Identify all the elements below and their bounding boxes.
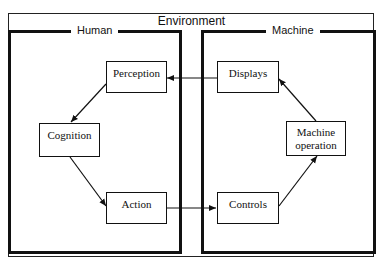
node-cognition-label: Cognition [47,129,91,142]
arrow-perception-to-cognition [71,84,106,122]
node-perception-label: Perception [113,67,160,80]
arrow-machine-operation-to-displays [279,79,316,121]
node-controls-label: Controls [229,198,267,211]
arrow-cognition-to-action [70,157,106,206]
node-cognition: Cognition [39,123,100,157]
node-displays-label: Displays [229,67,268,80]
node-machine-operation-label: Machine operation [291,126,341,152]
node-perception: Perception [106,61,167,93]
node-displays: Displays [217,61,279,93]
node-controls: Controls [217,192,279,224]
arrow-controls-to-machine-operation [279,156,317,206]
node-action-label: Action [122,198,152,211]
node-machine-operation: Machine operation [286,121,346,156]
human-machine-diagram: Environment Human Machine Perception Cog… [0,0,383,263]
node-action: Action [106,192,167,224]
